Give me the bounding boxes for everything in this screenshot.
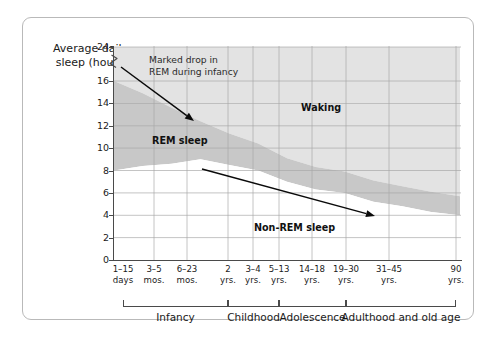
region-label-rem-sleep: REM sleep (152, 135, 208, 146)
x-tick-line1: 5–13 (269, 264, 290, 275)
x-tick-line1: 19–30 (333, 264, 359, 275)
x-axis-tick-3-5-mos-: 3–5mos. (144, 264, 165, 285)
x-tick-line1: 6–23 (177, 264, 198, 275)
y-axis-tick-24: 24 (87, 41, 109, 52)
x-tick-line2: mos. (177, 275, 198, 286)
y-axis-tick-10: 10 (87, 142, 109, 153)
y-axis-tick-mark-6 (109, 193, 113, 194)
x-tick-line2: yrs. (269, 275, 290, 286)
y-axis-line (113, 46, 114, 261)
x-axis-tick-19-30-yrs-: 19–30yrs. (333, 264, 359, 285)
x-tick-line1: 3–4 (245, 264, 261, 275)
age-group-brackets: InfancyChildhoodAdolescenceAdulthood and… (1, 300, 496, 337)
y-axis-tick-2: 2 (87, 232, 109, 243)
x-axis-tick-6-23-mos-: 6–23mos. (177, 264, 198, 285)
x-tick-line1: 1–15 (113, 264, 134, 275)
axis-break-icon (107, 54, 121, 72)
y-axis-tick-mark-24 (109, 47, 113, 48)
bracket-label-adolescence: Adolescence (279, 311, 345, 323)
bracket-label-infancy: Infancy (156, 311, 195, 323)
y-axis-tick-mark-10 (109, 148, 113, 149)
bracket-label-adulthood-and-old-age: Adulthood and old age (342, 311, 461, 323)
y-axis-tick-14: 14 (87, 97, 109, 108)
x-tick-line2: days (113, 275, 134, 286)
x-axis-tick-5-13-yrs-: 5–13yrs. (269, 264, 290, 285)
y-axis-tick-8: 8 (87, 165, 109, 176)
x-axis-tick-2-yrs-: 2yrs. (220, 264, 236, 285)
bracket-childhood (228, 300, 279, 307)
y-axis-tick-mark-4 (109, 215, 113, 216)
x-tick-line2: yrs. (376, 275, 402, 286)
y-axis-tick-mark-8 (109, 171, 113, 172)
y-axis-tick-labels: 024681012141624 (85, 46, 109, 260)
x-tick-line1: 31–45 (376, 264, 402, 275)
y-axis-tick-mark-0 (109, 260, 113, 261)
figure-frame: Average daily sleep (hours) 024681012141… (22, 17, 474, 320)
bracket-label-childhood: Childhood (227, 311, 280, 323)
bracket-adolescence (279, 300, 346, 307)
x-axis-tick-labels: 1–15days3–5mos.6–23mos.2yrs.3–4yrs.5–13y… (1, 264, 496, 290)
y-axis-tick-16: 16 (87, 75, 109, 86)
y-axis-tick-12: 12 (87, 120, 109, 131)
y-axis-tick-4: 4 (87, 209, 109, 220)
x-tick-line2: yrs. (299, 275, 325, 286)
region-label-non-rem-sleep: Non-REM sleep (254, 222, 335, 233)
y-axis-tick-mark-16 (109, 81, 113, 82)
x-tick-line2: yrs. (448, 275, 464, 286)
x-axis-tick-14-18-yrs-: 14–18yrs. (299, 264, 325, 285)
x-tick-line1: 2 (220, 264, 236, 275)
bracket-adulthood-and-old-age (346, 300, 456, 307)
y-axis-tick-6: 6 (87, 187, 109, 198)
bracket-infancy (123, 300, 228, 307)
y-axis-tick-mark-14 (109, 103, 113, 104)
x-tick-line1: 3–5 (144, 264, 165, 275)
y-axis-tick-mark-12 (109, 126, 113, 127)
x-tick-line2: mos. (144, 275, 165, 286)
x-axis-tick-1-15-days: 1–15days (113, 264, 134, 285)
x-axis-line (113, 260, 462, 261)
x-tick-line2: yrs. (245, 275, 261, 286)
x-tick-line2: yrs. (333, 275, 359, 286)
x-axis-tick-31-45-yrs-: 31–45yrs. (376, 264, 402, 285)
x-axis-tick-90-yrs-: 90yrs. (448, 264, 464, 285)
region-label-waking: Waking (301, 102, 341, 113)
x-tick-line1: 14–18 (299, 264, 325, 275)
annotation-marked-drop: Marked drop in REM during infancy (149, 54, 238, 77)
x-tick-line1: 90 (448, 264, 464, 275)
x-axis-tick-3-4-yrs-: 3–4yrs. (245, 264, 261, 285)
x-tick-line2: yrs. (220, 275, 236, 286)
y-axis-tick-mark-2 (109, 238, 113, 239)
